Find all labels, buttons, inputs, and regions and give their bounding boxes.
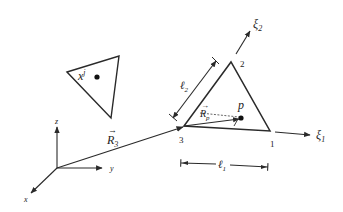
l1-right-arrowhead: [261, 165, 267, 169]
svg-text:xj: xj: [77, 68, 86, 83]
vertex-1-label: 1: [270, 139, 275, 149]
xi1-axis: [275, 132, 310, 135]
xi1-subscript: 1: [321, 135, 325, 144]
rp-vector: [184, 119, 239, 126]
rp-subscript: p: [205, 114, 210, 122]
l2-end-tick-top: [212, 57, 219, 64]
y-axis-label: y: [109, 164, 114, 173]
global-frame: [31, 127, 102, 193]
r3-vector: [57, 127, 183, 168]
xi2-subscript: 2: [258, 24, 262, 33]
r3-subscript: 3: [113, 140, 118, 149]
svg-text:Rp: Rp: [199, 108, 210, 122]
point-p-dot: [238, 115, 243, 120]
source-triangle: [67, 56, 119, 118]
svg-text:ξ2: ξ2: [253, 17, 262, 33]
x-axis: [31, 168, 57, 193]
point-p-label: p: [237, 98, 244, 112]
svg-text:ℓ1: ℓ1: [218, 158, 226, 173]
triangle-geometry-diagram: xj z y x R3 → 3 2 1 p Rp → ξ2 ξ1: [0, 0, 343, 212]
svg-text:ℓ2: ℓ2: [180, 79, 189, 94]
rp-arrow-accent: →: [201, 101, 209, 110]
source-element: xj: [67, 56, 119, 118]
target-element: 3 2 1 p Rp →: [179, 59, 275, 149]
l2-subscript: 2: [185, 86, 189, 94]
vertex-2-label: 2: [240, 59, 245, 69]
r3-arrow-accent: →: [108, 125, 117, 135]
l1-left-arrowhead: [182, 161, 188, 165]
z-axis-label: z: [54, 117, 59, 126]
svg-text:R3: R3: [106, 133, 118, 149]
svg-text:ξ1: ξ1: [316, 128, 325, 144]
source-point-dot: [94, 74, 99, 79]
x-axis-label: x: [23, 195, 28, 204]
xi2-axis: [236, 31, 250, 54]
source-label-sup: j: [82, 68, 86, 77]
vertex-3-label: 3: [179, 135, 184, 145]
l1-subscript: 1: [223, 165, 227, 173]
